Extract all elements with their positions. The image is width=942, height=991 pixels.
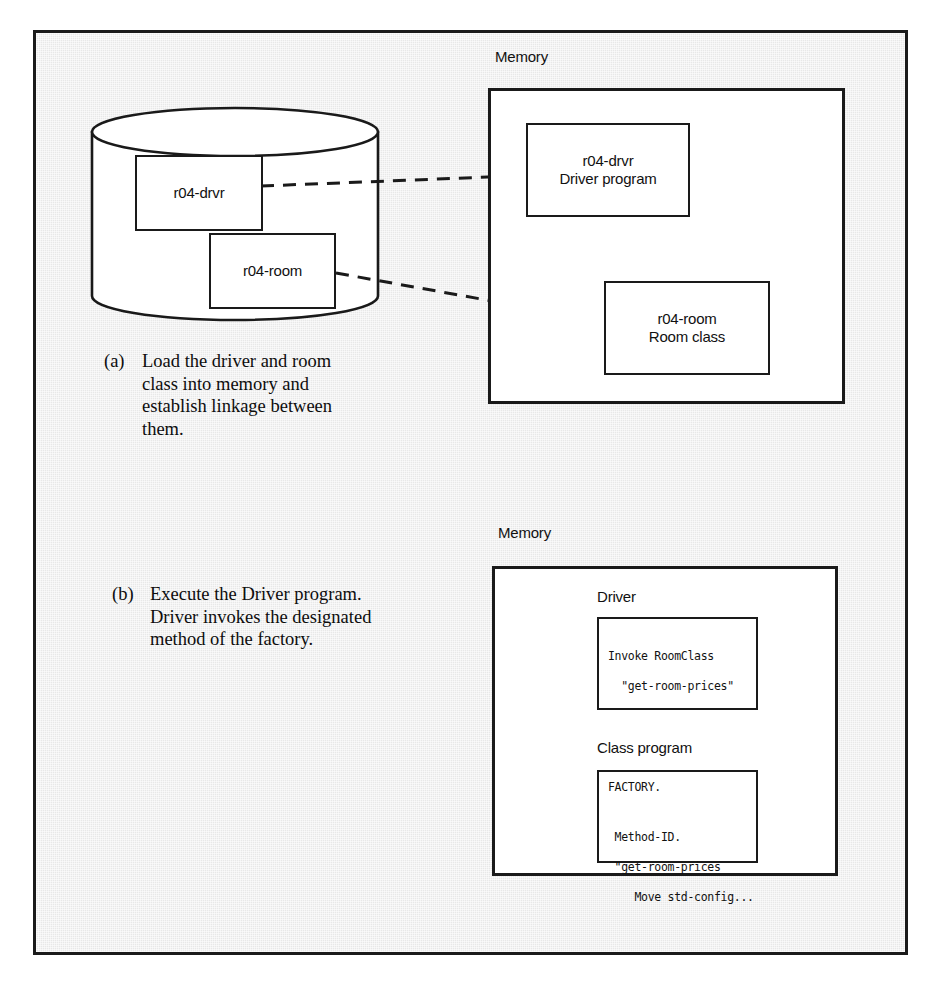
caption-b-line-3: method of the factory. — [150, 628, 442, 651]
factory-code-line-2 — [608, 810, 754, 814]
caption-a-line-3: establish linkage between — [142, 395, 404, 418]
memory-item-room-line1: r04-room — [657, 310, 716, 328]
driver-code-line-2: "get-room-prices" — [608, 679, 734, 694]
caption-b-line-2: Driver invokes the designated — [150, 606, 442, 629]
class-program-code-box: FACTORY. Method-ID. "get-room-prices Mov… — [597, 770, 758, 863]
memory-item-driver: r04-drvr Driver program — [526, 123, 690, 217]
memory-title-b: Memory — [498, 524, 551, 541]
factory-code-line-5: Move std-config... — [608, 890, 754, 905]
caption-b: (b) Execute the Driver program. Driver i… — [112, 583, 442, 651]
memory-item-room: r04-room Room class — [604, 281, 770, 375]
driver-code-line-1: Invoke RoomClass — [608, 649, 734, 664]
driver-code-text: Invoke RoomClass "get-room-prices" — [608, 649, 734, 695]
memory-title-a: Memory — [495, 48, 548, 65]
driver-code-box: Invoke RoomClass "get-room-prices" — [597, 617, 758, 710]
figure-page: r04-drvr r04-room Memory r04-drvr Driver… — [0, 0, 942, 991]
caption-b-line-1: Execute the Driver program. — [150, 583, 442, 606]
caption-b-body: Execute the Driver program. Driver invok… — [150, 583, 442, 651]
memory-item-driver-line2: Driver program — [559, 170, 656, 188]
disk-file-label-drvr: r04-drvr — [174, 184, 225, 202]
caption-a: (a) Load the driver and room class into … — [104, 350, 404, 440]
disk-file-label-room: r04-room — [243, 262, 302, 280]
driver-section-title: Driver — [597, 588, 636, 605]
disk-file-box-drvr: r04-drvr — [135, 155, 263, 231]
factory-code-line-3: Method-ID. — [608, 830, 754, 845]
class-program-code-text: FACTORY. Method-ID. "get-room-prices Mov… — [608, 780, 754, 905]
class-program-section-title: Class program — [597, 739, 692, 756]
caption-a-line-1: Load the driver and room — [142, 350, 404, 373]
caption-b-tag: (b) — [112, 583, 150, 606]
caption-a-tag: (a) — [104, 350, 142, 373]
factory-code-line-4: "get-room-prices — [608, 860, 754, 875]
memory-item-room-line2: Room class — [649, 328, 725, 346]
factory-code-line-1: FACTORY. — [608, 780, 754, 795]
memory-item-driver-line1: r04-drvr — [583, 152, 634, 170]
caption-a-line-2: class into memory and — [142, 373, 404, 396]
caption-a-body: Load the driver and room class into memo… — [142, 350, 404, 440]
disk-file-box-room: r04-room — [209, 233, 336, 309]
caption-a-line-4: them. — [142, 418, 404, 441]
